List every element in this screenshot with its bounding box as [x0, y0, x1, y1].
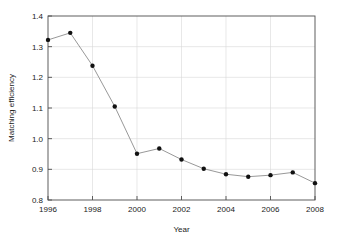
- data-point: [157, 146, 161, 150]
- y-tick-label: 0.9: [32, 165, 44, 174]
- x-tick-label: 1998: [84, 205, 102, 214]
- data-point: [68, 31, 72, 35]
- x-tick-label: 2006: [262, 205, 280, 214]
- data-point: [313, 181, 317, 185]
- y-tick-label: 1.1: [32, 104, 44, 113]
- y-tick-label: 1.3: [32, 43, 44, 52]
- data-point: [246, 174, 250, 178]
- x-tick-label: 2002: [173, 205, 191, 214]
- data-point: [202, 167, 206, 171]
- data-point: [46, 38, 50, 42]
- chart-canvas: 0.80.91.01.11.21.31.4 199619982000200220…: [0, 0, 341, 243]
- line-chart: 0.80.91.01.11.21.31.4 199619982000200220…: [0, 0, 341, 243]
- x-tick-label: 2008: [306, 205, 324, 214]
- y-tick-label: 1.0: [32, 135, 44, 144]
- y-axis-title: Matching efficiency: [7, 74, 16, 142]
- data-point: [135, 151, 139, 155]
- data-point: [268, 173, 272, 177]
- y-tick-label: 0.8: [32, 196, 44, 205]
- data-point: [179, 157, 183, 161]
- x-axis-title: Year: [173, 225, 190, 234]
- x-tick-label: 2004: [217, 205, 235, 214]
- x-tick-label: 1996: [39, 205, 57, 214]
- data-point: [113, 104, 117, 108]
- data-point: [224, 172, 228, 176]
- data-point: [90, 63, 94, 67]
- y-tick-label: 1.2: [32, 73, 44, 82]
- x-tick-label: 2000: [128, 205, 146, 214]
- data-point: [291, 170, 295, 174]
- y-tick-label: 1.4: [32, 12, 44, 21]
